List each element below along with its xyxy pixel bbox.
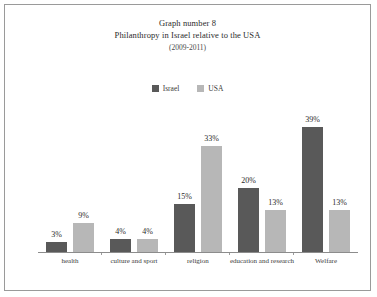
bar-value-label: 13% <box>332 198 347 208</box>
chart-frame: Graph number 8 Philanthropy in Israel re… <box>4 4 371 291</box>
chart-title: Graph number 8 <box>5 17 370 29</box>
chart-subtitle: Philanthropy in Israel relative to the U… <box>5 29 370 41</box>
legend-swatch-usa <box>197 85 204 92</box>
bar-value-label: 3% <box>51 230 62 240</box>
bar-group: 39%13% <box>294 105 358 252</box>
bar-rect[interactable] <box>238 188 259 252</box>
chart-legend: Israel USA <box>5 84 370 93</box>
category-label: culture and sport <box>102 255 166 269</box>
bar-israel[interactable]: 20% <box>238 176 259 252</box>
bar-value-label: 4% <box>142 227 153 237</box>
chart-period: (2009-2011) <box>5 42 370 54</box>
bar-usa[interactable]: 9% <box>73 211 94 252</box>
legend-label-usa: USA <box>208 84 223 93</box>
bar-rect[interactable] <box>110 239 131 252</box>
bar-israel[interactable]: 15% <box>174 192 195 252</box>
bar-value-label: 13% <box>268 198 283 208</box>
bar-rect[interactable] <box>174 204 195 252</box>
bar-rect[interactable] <box>265 210 286 252</box>
bar-rect[interactable] <box>201 146 222 252</box>
bar-group: 3%9% <box>38 105 102 252</box>
bar-usa[interactable]: 13% <box>329 198 350 252</box>
category-label: education and research <box>230 255 294 269</box>
legend-item-usa[interactable]: USA <box>197 84 223 93</box>
bar-israel[interactable]: 39% <box>302 115 323 252</box>
bar-value-label: 9% <box>78 211 89 221</box>
bar-value-label: 39% <box>305 115 320 125</box>
bar-group: 20%13% <box>230 105 294 252</box>
bar-groups: 3%9%4%4%15%33%20%13%39%13% <box>38 105 358 252</box>
bar-rect[interactable] <box>302 127 323 252</box>
bar-usa[interactable]: 33% <box>201 134 222 252</box>
x-axis-line <box>38 252 358 253</box>
category-label: health <box>38 255 102 269</box>
bar-usa[interactable]: 4% <box>137 227 158 252</box>
category-labels: healthculture and sportreligioneducation… <box>38 255 358 269</box>
bar-group: 15%33% <box>166 105 230 252</box>
category-label: religion <box>166 255 230 269</box>
bar-israel[interactable]: 3% <box>46 230 67 252</box>
bar-usa[interactable]: 13% <box>265 198 286 252</box>
bar-rect[interactable] <box>73 223 94 252</box>
bar-value-label: 4% <box>115 227 126 237</box>
bar-israel[interactable]: 4% <box>110 227 131 252</box>
legend-label-israel: Israel <box>163 84 180 93</box>
bar-value-label: 33% <box>204 134 219 144</box>
bar-value-label: 15% <box>177 192 192 202</box>
legend-swatch-israel <box>152 85 159 92</box>
bar-value-label: 20% <box>241 176 256 186</box>
chart-titles: Graph number 8 Philanthropy in Israel re… <box>5 17 370 54</box>
bar-group: 4%4% <box>102 105 166 252</box>
bar-rect[interactable] <box>329 210 350 252</box>
category-label: Welfare <box>294 255 358 269</box>
legend-item-israel[interactable]: Israel <box>152 84 180 93</box>
bar-rect[interactable] <box>137 239 158 252</box>
bar-rect[interactable] <box>46 242 67 252</box>
plot-area: 3%9%4%4%15%33%20%13%39%13% <box>38 105 358 253</box>
